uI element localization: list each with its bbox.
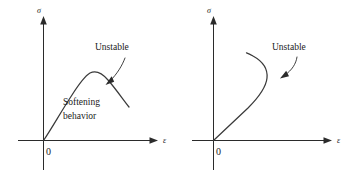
sigma-axis-label-left: σ	[37, 6, 42, 15]
panel-softening: σ ε 0 Unstable Softening behavior	[18, 6, 167, 170]
origin-label-right: 0	[216, 146, 221, 157]
epsilon-axis-label-left: ε	[163, 136, 167, 145]
origin-label-left: 0	[46, 146, 51, 157]
unstable-label-right: Unstable	[272, 42, 306, 52]
sigma-axis-arrowhead-left	[40, 16, 47, 25]
unstable-leader-left	[110, 58, 125, 81]
panel-snapback: σ ε 0 Unstable	[192, 6, 341, 170]
stress-strain-figure: σ ε 0 Unstable Softening behavior σ ε 0	[0, 0, 359, 179]
epsilon-axis-label-right: ε	[337, 136, 341, 145]
figure-canvas: σ ε 0 Unstable Softening behavior σ ε 0	[0, 0, 359, 179]
snapback-curve	[214, 53, 268, 141]
sigma-axis-label-right: σ	[207, 6, 212, 15]
softening-label-line-1: Softening	[63, 97, 100, 107]
epsilon-axis-arrowhead-left	[150, 137, 159, 144]
sigma-axis-arrowhead-right	[210, 16, 217, 25]
unstable-label-left: Unstable	[95, 42, 129, 52]
epsilon-axis-arrowhead-right	[324, 137, 333, 144]
unstable-leader-arrowhead-right	[280, 71, 289, 79]
softening-label-line-2: behavior	[63, 111, 97, 121]
